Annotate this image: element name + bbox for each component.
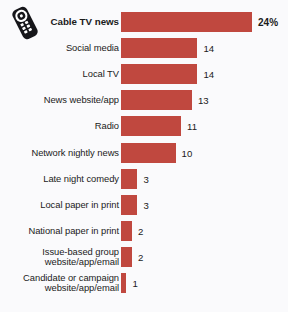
bar-row: Network nightly news10: [0, 143, 288, 163]
bar-value-label: 10: [182, 147, 193, 158]
bar-value-label: 1: [132, 278, 137, 289]
bar: [121, 221, 132, 241]
bar-category-label: Late night comedy: [0, 173, 119, 183]
bar-value-label: 3: [143, 173, 148, 184]
bar-row: Social media14: [0, 38, 288, 58]
bar-category-label: Issue-based group website/app/email: [0, 247, 119, 267]
bar-value-label: 24%: [258, 17, 278, 28]
bar-category-label: Candidate or campaign website/app/email: [0, 273, 119, 293]
bar-category-label: National paper in print: [0, 226, 119, 236]
bar: [121, 90, 192, 110]
bar-category-label: Local paper in print: [0, 200, 119, 210]
bar-value-label: 14: [203, 69, 214, 80]
bar-row: Candidate or campaign website/app/email1: [0, 273, 288, 293]
bar-category-label: Social media: [0, 43, 119, 53]
bar: [121, 273, 126, 293]
bar-row: Issue-based group website/app/email2: [0, 247, 288, 267]
bar-value-label: 2: [138, 225, 143, 236]
bar-row: Local paper in print3: [0, 195, 288, 215]
bar-row: News website/app13: [0, 90, 288, 110]
bar: [121, 169, 137, 189]
bar-category-label: Local TV: [0, 69, 119, 79]
bar: [121, 247, 132, 267]
bar-row: Local TV14: [0, 64, 288, 84]
bar-category-label: Radio: [0, 121, 119, 131]
bar-chart: Cable TV news24%Social media14Local TV14…: [0, 0, 288, 312]
bar: [121, 12, 252, 32]
bar-value-label: 14: [203, 43, 214, 54]
bar-category-label: Network nightly news: [0, 147, 119, 157]
bar-row: Radio11: [0, 116, 288, 136]
bar: [121, 116, 181, 136]
bar-row: Late night comedy3: [0, 169, 288, 189]
bar-row: Cable TV news24%: [0, 12, 288, 32]
bar: [121, 143, 176, 163]
bar: [121, 38, 197, 58]
bar-row: National paper in print2: [0, 221, 288, 241]
bar: [121, 64, 197, 84]
bar-value-label: 2: [138, 251, 143, 262]
bar-category-label: Cable TV news: [0, 17, 119, 27]
bar: [121, 195, 137, 215]
bar-value-label: 3: [143, 199, 148, 210]
bar-value-label: 11: [187, 121, 197, 132]
bar-category-label: News website/app: [0, 95, 119, 105]
bar-value-label: 13: [198, 95, 209, 106]
